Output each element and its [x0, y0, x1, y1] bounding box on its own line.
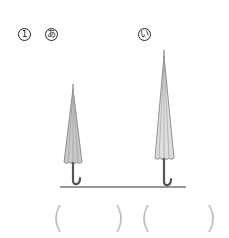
answer-b-open-paren: (	[140, 203, 152, 233]
short-umbrella-icon	[64, 84, 82, 184]
answer-b-close-paren: )	[205, 203, 217, 233]
tall-umbrella-icon	[155, 50, 174, 185]
answer-a-input[interactable]	[66, 206, 110, 232]
answer-b-input[interactable]	[154, 206, 202, 232]
answer-a-close-paren: )	[113, 203, 125, 233]
answer-a-open-paren: (	[52, 203, 64, 233]
